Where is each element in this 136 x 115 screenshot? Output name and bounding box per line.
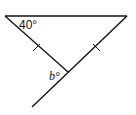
geometry-diagram: 40° b° (0, 0, 136, 115)
angle-label-b: b° (49, 69, 60, 83)
right-side-extended (32, 16, 127, 107)
tick-mark-left (33, 44, 40, 51)
angle-label-40: 40° (19, 18, 37, 32)
